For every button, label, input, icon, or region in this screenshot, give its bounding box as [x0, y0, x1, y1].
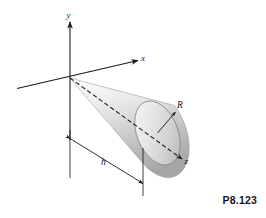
x-axis-label: x [140, 53, 145, 63]
y-axis-label: y [66, 10, 71, 20]
cone-diagram: y x z R h [0, 0, 266, 218]
height-label: h [101, 157, 106, 167]
z-axis-label: z [184, 156, 189, 166]
radius-label: R [176, 100, 183, 110]
figure-container: y x z R h P8.123 [0, 0, 266, 218]
figure-number: P8.123 [223, 194, 257, 206]
cone-solid [70, 78, 189, 178]
